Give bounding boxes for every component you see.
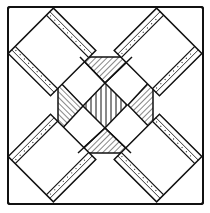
- quilt-block-diagram: [0, 0, 210, 213]
